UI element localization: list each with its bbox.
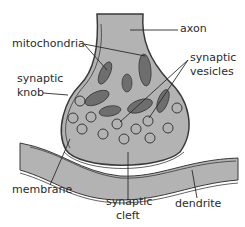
label-synaptic-cleft-line1: synaptic <box>106 196 152 208</box>
label-axon: axon <box>180 23 207 35</box>
label-mitochondria: mitochondria <box>12 38 85 50</box>
label-synaptic-knob-line2: knob <box>17 87 44 99</box>
label-synaptic-knob-line1: synaptic <box>17 73 63 85</box>
label-dendrite: dendrite <box>175 198 221 210</box>
label-synaptic-vesicles-line1: synaptic <box>190 52 236 64</box>
label-synaptic-vesicles-line2: vesicles <box>190 66 234 78</box>
label-membrane: membrane <box>12 184 72 196</box>
label-synaptic-cleft-line2: cleft <box>116 210 140 222</box>
